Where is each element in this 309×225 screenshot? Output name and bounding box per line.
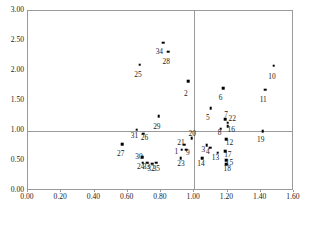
x-tick-label: 1.60 [286,193,299,201]
data-point-label: 12 [226,139,233,146]
data-point-label: 31 [131,132,138,139]
data-point-label: 2 [184,90,188,97]
x-tick-mark [227,190,228,192]
data-point [162,42,165,45]
y-tick-label: 1.00 [11,126,24,134]
reference-line-y-1 [28,131,292,132]
y-tick-label: 0.50 [11,156,24,164]
x-tick-mark [27,190,28,192]
data-point-label: 20 [189,130,196,137]
data-point-label: 3 [202,146,206,153]
data-point-label: 25 [134,71,141,78]
plot-area: 1234567891011121314151617181920212223242… [27,10,293,190]
data-point-label: 17 [224,151,231,158]
data-point-label: 8 [218,129,222,136]
data-point-label: 9 [186,149,190,156]
data-point-label: 29 [153,123,160,130]
x-tick-mark [260,190,261,192]
x-tick-label: 0.40 [87,193,100,201]
x-tick-label: 0.20 [54,193,67,201]
data-point-label: 14 [197,160,204,167]
x-tick-label: 1.40 [253,193,266,201]
reference-line-x-1 [194,11,195,189]
data-point [167,50,170,53]
data-point-label: 35 [153,165,160,172]
data-point-label: 33 [143,163,150,170]
x-tick-mark [94,190,95,192]
data-point-label: 6 [219,94,223,101]
data-point [261,130,264,133]
x-tick-mark [293,190,294,192]
data-point-label: 19 [257,136,264,143]
data-point-label: 13 [212,154,219,161]
data-point-label: 16 [227,126,234,133]
data-point-label: 10 [268,73,275,80]
data-point-label: 30 [135,153,142,160]
x-tick-mark [193,190,194,192]
data-point-label: 28 [163,58,170,65]
data-point-label: 34 [156,48,163,55]
x-tick-mark [160,190,161,192]
data-point [210,107,213,110]
x-tick-label: 0.80 [153,193,166,201]
data-point-label: 11 [260,96,267,103]
data-point-label: 1 [175,148,179,155]
data-point [187,80,190,83]
x-tick-label: 1.00 [187,193,200,201]
x-tick-mark [60,190,61,192]
data-point [222,87,225,90]
x-tick-label: 0.60 [120,193,133,201]
data-point-label: 18 [223,165,230,172]
y-tick-label: 2.00 [11,66,24,74]
data-point-label: 23 [177,160,184,167]
data-point [138,63,141,66]
y-tick-label: 1.50 [11,96,24,104]
data-point-label: 22 [228,115,235,122]
data-point-label: 26 [141,134,148,141]
y-tick-label: 2.50 [11,36,24,44]
data-point [121,143,124,146]
x-tick-label: 1.20 [220,193,233,201]
x-tick-mark [127,190,128,192]
y-tick-label: 3.00 [11,6,24,14]
data-point-label: 7 [224,111,228,118]
data-point [180,149,183,152]
scatter-chart-figure: 1234567891011121314151617181920212223242… [0,0,309,225]
data-point-label: 27 [117,150,124,157]
data-point-label: 4 [206,148,210,155]
data-point-label: 5 [206,114,210,121]
x-tick-label: 0.00 [20,193,33,201]
data-point-label: 21 [177,139,184,146]
data-point [157,115,160,118]
data-point [264,88,267,91]
data-point [272,64,275,67]
